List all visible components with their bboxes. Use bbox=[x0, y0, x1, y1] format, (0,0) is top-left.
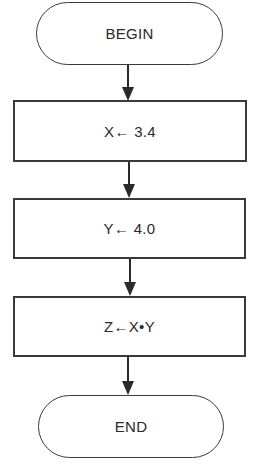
begin-label: BEGIN bbox=[105, 25, 153, 42]
begin-terminal: BEGIN bbox=[36, 2, 223, 65]
end-label: END bbox=[115, 418, 148, 435]
compute-z-label: Z←X•Y bbox=[104, 318, 155, 335]
arrowhead-icon bbox=[123, 184, 135, 198]
arrowhead-icon bbox=[122, 87, 134, 101]
assign-y-label: Y← 4.0 bbox=[104, 220, 156, 237]
end-terminal: END bbox=[38, 395, 224, 458]
process-assign-x: X← 3.4 bbox=[13, 100, 247, 162]
assign-x-label: X← 3.4 bbox=[104, 123, 156, 140]
arrowhead-icon bbox=[124, 282, 136, 296]
arrowhead-icon bbox=[122, 381, 134, 395]
process-compute-z: Z←X•Y bbox=[13, 296, 246, 357]
process-assign-y: Y← 4.0 bbox=[13, 198, 246, 259]
